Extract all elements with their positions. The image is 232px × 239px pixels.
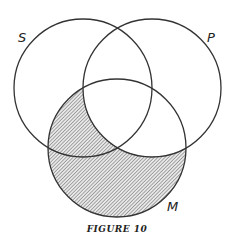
label-s: S	[18, 30, 26, 45]
label-p: P	[207, 30, 215, 45]
label-m: M	[167, 199, 178, 214]
venn-diagram: S P M FIGURE 10	[0, 0, 232, 239]
figure-caption: FIGURE 10	[86, 224, 148, 234]
